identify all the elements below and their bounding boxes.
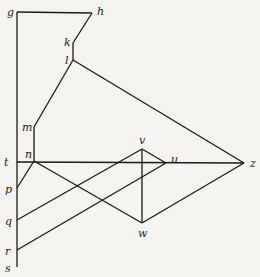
- node-label-u: u: [171, 153, 178, 166]
- node-label-z: z: [249, 157, 256, 170]
- node-label-g: g: [7, 6, 14, 19]
- diagram: ghklmntpqrsvuwz: [0, 0, 260, 277]
- edge-l-m: [34, 60, 73, 127]
- edge-p-n: [17, 161, 34, 188]
- edge-g-h: [17, 12, 92, 13]
- node-label-v: v: [139, 134, 146, 147]
- node-label-p: p: [5, 183, 12, 196]
- edge-n-w: [34, 161, 142, 223]
- edge-t-z: [17, 162, 244, 163]
- node-label-m: m: [22, 121, 32, 134]
- edge-w-z: [142, 163, 244, 223]
- node-label-s: s: [5, 262, 11, 275]
- node-label-k: k: [64, 36, 71, 49]
- edge-q-v: [17, 149, 142, 220]
- node-label-n: n: [25, 148, 32, 161]
- node-label-h: h: [97, 5, 104, 18]
- node-label-t: t: [4, 156, 9, 169]
- node-label-l: l: [65, 54, 69, 67]
- node-label-w: w: [138, 227, 148, 240]
- edge-l-z: [73, 60, 244, 163]
- edge-h-k: [73, 13, 92, 43]
- diagram-canvas: ghklmntpqrsvuwz: [0, 0, 260, 277]
- node-label-q: q: [5, 215, 12, 228]
- node-label-r: r: [5, 245, 11, 258]
- edge-v-u: [142, 149, 166, 163]
